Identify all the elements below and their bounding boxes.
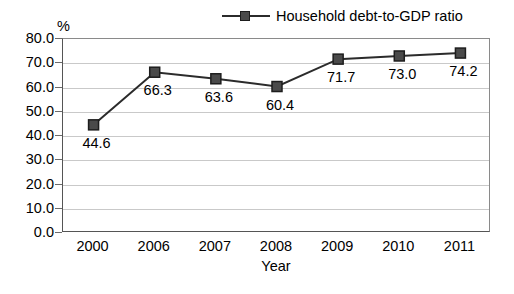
y-axis-tick: [55, 38, 62, 39]
plot-area: [62, 38, 490, 232]
legend-marker-icon: [222, 9, 270, 23]
y-axis-tick: [55, 184, 62, 185]
series-household-debt-to-gdp-ratio: [63, 39, 491, 233]
x-axis-label-2008: 2008: [260, 238, 292, 254]
y-axis-tick: [55, 62, 62, 63]
chart-legend: Household debt-to-GDP ratio: [222, 6, 463, 26]
y-axis-tick: [55, 208, 62, 209]
data-point-marker: [150, 67, 160, 77]
chart-container: Household debt-to-GDP ratio % 80.070.060…: [0, 0, 514, 294]
data-label-2010: 73.0: [388, 67, 416, 82]
y-axis-label: 20.0: [0, 177, 54, 192]
y-axis-tick: [55, 87, 62, 88]
y-axis-label: 0.0: [0, 225, 54, 240]
x-axis-label-2010: 2010: [382, 238, 414, 254]
legend-label-household-debt-to-gdp-ratio: Household debt-to-GDP ratio: [270, 8, 463, 24]
data-label-2000: 44.6: [82, 136, 110, 151]
y-axis-label: 80.0: [0, 31, 54, 46]
data-label-2008: 60.4: [266, 98, 294, 113]
data-point-marker: [455, 48, 465, 58]
y-axis-tick: [55, 135, 62, 136]
data-label-2011: 74.2: [449, 64, 477, 79]
data-point-marker: [272, 82, 282, 92]
y-axis-label: 70.0: [0, 55, 54, 70]
data-label-2006: 66.3: [144, 83, 172, 98]
data-point-marker: [211, 74, 221, 84]
x-axis-label-2006: 2006: [138, 238, 170, 254]
data-label-2007: 63.6: [205, 90, 233, 105]
y-axis-label: 50.0: [0, 104, 54, 119]
data-label-2009: 71.7: [327, 70, 355, 85]
x-axis-title: Year: [261, 258, 290, 274]
y-axis-tick: [55, 111, 62, 112]
x-axis-label-2000: 2000: [76, 238, 108, 254]
data-point-marker: [333, 54, 343, 64]
y-axis-label: 30.0: [0, 152, 54, 167]
y-axis-label: 10.0: [0, 201, 54, 216]
y-axis-tick: [55, 159, 62, 160]
data-point-marker: [89, 120, 99, 130]
x-axis-label-2007: 2007: [199, 238, 231, 254]
y-axis-label: 60.0: [0, 80, 54, 95]
y-axis-tick: [55, 232, 62, 233]
data-point-marker: [394, 51, 404, 61]
x-axis-label-2011: 2011: [444, 238, 475, 254]
y-axis-unit-label: %: [57, 18, 70, 34]
y-axis-label: 40.0: [0, 128, 54, 143]
x-axis-label-2009: 2009: [321, 238, 353, 254]
